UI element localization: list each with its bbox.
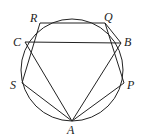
geometry-diagram: R Q C B S P A [0,0,143,138]
label-P: P [126,78,135,92]
label-R: R [29,11,38,25]
segment-BA [72,43,121,121]
segment-PA [72,83,124,121]
label-B: B [124,35,132,49]
segment-CB [25,42,121,43]
label-S: S [10,78,16,92]
label-Q: Q [104,10,113,24]
segment-SA [22,83,72,121]
label-A: A [66,123,75,137]
label-C: C [13,35,22,49]
segment-CA [25,42,72,121]
